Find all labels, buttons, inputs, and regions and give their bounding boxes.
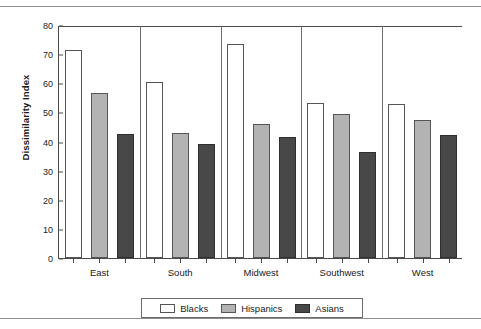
x-axis-tick-mark (342, 259, 343, 263)
y-axis-tick-label: 40 (43, 138, 59, 148)
bar-south-blacks (146, 82, 163, 258)
legend-item-hispanics: Hispanics (221, 303, 282, 314)
x-axis-tick-mark (180, 259, 181, 263)
x-axis-tick-mark (316, 259, 317, 263)
x-axis-tick-mark (287, 259, 288, 263)
y-axis-tick-label: 80 (43, 21, 59, 31)
y-axis-tick-mark (59, 171, 63, 172)
y-axis-tick-label: 50 (43, 108, 59, 118)
bar-southwest-blacks (307, 103, 324, 258)
x-axis-tick-mark (368, 259, 369, 263)
legend-label: Blacks (180, 303, 208, 314)
group-separator-line (301, 26, 302, 259)
y-axis-tick-label: 70 (43, 50, 59, 60)
bar-chart-figure: Dissimilarity Index 01020304050607080Eas… (0, 12, 481, 312)
legend-swatch-blacks-icon (160, 304, 175, 313)
bar-midwest-hispanics (253, 124, 270, 258)
bar-southwest-asians (359, 152, 376, 258)
x-axis-tick-mark (449, 259, 450, 263)
y-axis-tick-mark (59, 200, 63, 201)
bar-west-blacks (388, 104, 405, 258)
y-axis-tick-mark (59, 55, 63, 56)
y-axis-tick-mark (59, 142, 63, 143)
bar-west-hispanics (414, 120, 431, 258)
y-axis-tick-label: 20 (43, 196, 59, 206)
x-axis-category-label-southwest: Southwest (320, 267, 364, 278)
x-axis-tick-mark (397, 259, 398, 263)
x-axis-tick-mark (73, 259, 74, 263)
legend-swatch-hispanics-icon (221, 304, 236, 313)
x-axis-tick-mark (154, 259, 155, 263)
x-axis-tick-mark (206, 259, 207, 263)
bar-midwest-blacks (227, 44, 244, 258)
bar-south-asians (198, 144, 215, 258)
group-separator-line (140, 26, 141, 259)
y-axis-tick-mark (59, 84, 63, 85)
legend-label: Hispanics (241, 303, 282, 314)
bar-southwest-hispanics (333, 114, 350, 258)
x-axis-tick-mark (423, 259, 424, 263)
bar-east-blacks (65, 50, 82, 258)
page-rule-bottom (0, 318, 481, 319)
y-axis-tick-label: 0 (48, 254, 59, 264)
x-axis-tick-mark (235, 259, 236, 263)
page-rule-top (0, 6, 481, 7)
bar-east-hispanics (91, 93, 108, 258)
legend-swatch-asians-icon (295, 304, 310, 313)
x-axis-tick-mark (125, 259, 126, 263)
bar-south-hispanics (172, 133, 189, 258)
x-axis-category-label-west: West (412, 267, 433, 278)
y-axis-tick-label: 30 (43, 167, 59, 177)
x-axis-category-label-east: East (90, 267, 109, 278)
y-axis-tick-label: 10 (43, 225, 59, 235)
y-axis-title: Dissimilarity Index (20, 48, 31, 188)
group-separator-line (382, 26, 383, 259)
bar-east-asians (117, 134, 134, 258)
y-axis-tick-mark (59, 26, 63, 27)
chart-legend: BlacksHispanicsAsians (141, 298, 363, 318)
plot-area: 01020304050607080EastSouthMidwestSouthwe… (58, 26, 462, 259)
y-axis-tick-label: 60 (43, 79, 59, 89)
legend-item-blacks: Blacks (160, 303, 208, 314)
bar-midwest-asians (279, 137, 296, 258)
group-separator-line (221, 26, 222, 259)
x-axis-category-label-midwest: Midwest (244, 267, 279, 278)
y-axis-tick-mark (59, 259, 63, 260)
bar-west-asians (440, 135, 457, 258)
x-axis-category-label-south: South (168, 267, 193, 278)
x-axis-tick-mark (261, 259, 262, 263)
y-axis-tick-mark (59, 229, 63, 230)
x-axis-tick-mark (99, 259, 100, 263)
legend-item-asians: Asians (295, 303, 344, 314)
y-axis-tick-mark (59, 113, 63, 114)
legend-label: Asians (315, 303, 344, 314)
